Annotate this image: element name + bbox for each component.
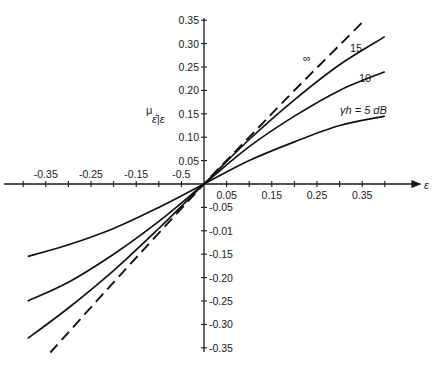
y-tick-label: 0.20 [179,84,200,96]
curve-- [50,23,362,353]
chart: -0.35-0.25-0.15-0.50.050.150.250.350.350… [0,0,440,367]
x-tick-label: -0.5 [172,168,190,180]
x-tick-label: -0.15 [124,168,148,180]
x-tick-label: 0.05 [216,189,237,201]
y-tick-label: 0.25 [179,61,200,73]
curve-10 [28,72,385,301]
curve-15 [28,37,385,339]
y-tick-label: -0.35 [209,342,233,354]
y-tick-label: -0.01 [209,225,233,237]
y-tick-label: 0.05 [179,155,200,167]
y-tick-label: 0.35 [179,14,200,26]
y-axis-label-sub: ε̂|ε [152,113,165,125]
x-axis-label: ε [424,179,429,191]
label-10: 10 [359,72,371,84]
x-tick-label: -0.35 [34,168,58,180]
y-tick-label: -0.05 [209,201,233,213]
y-tick-label: -0.20 [209,272,233,284]
curves [28,23,385,353]
y-tick-label: 0.15 [179,108,200,120]
x-tick-label: 0.25 [307,189,328,201]
label-5db: γh = 5 dB [340,104,387,116]
x-axis-arrow-icon [412,181,420,187]
y-tick-label: -0.30 [209,318,233,330]
label-infinity: ∞ [303,52,311,64]
y-tick-label: -0.15 [209,248,233,260]
label-15: 15 [350,42,362,54]
x-tick-label: 0.15 [262,189,283,201]
y-tick-label: -0.25 [209,295,233,307]
y-axis-label: μ ε̂|ε [146,104,165,125]
y-tick-label: 0.10 [179,131,200,143]
x-tick-label: 0.35 [352,189,373,201]
x-tick-label: -0.25 [79,168,103,180]
y-tick-label: 0.30 [179,38,200,50]
